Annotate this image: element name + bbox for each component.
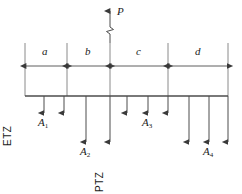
load-label-a3: A3 <box>142 117 152 128</box>
load-label-a4-base: A <box>203 145 210 157</box>
diagram-canvas <box>0 0 242 194</box>
zone-label-etz: ETZ <box>3 126 13 146</box>
load-label-a2: A2 <box>80 146 90 157</box>
load-label-a3-sub: 3 <box>149 122 153 130</box>
load-label-a2-base: A <box>80 145 87 157</box>
load-label-a3-base: A <box>142 116 149 128</box>
applied-load-group <box>107 11 114 43</box>
zone-label-ptz: PTZ <box>95 172 105 192</box>
dimension-label-b: b <box>85 46 91 57</box>
load-label-a4-sub: 4 <box>210 151 214 159</box>
line-break-symbol <box>107 27 114 34</box>
beam-load-diagram: P a b c d ETZ PTZ A1 A2 A3 A4 <box>0 0 242 194</box>
dimension-label-d: d <box>195 46 201 57</box>
dimension-label-a: a <box>42 46 48 57</box>
load-label-a1: A1 <box>38 117 48 128</box>
applied-load-label: P <box>117 6 124 17</box>
load-label-a4: A4 <box>203 146 213 157</box>
load-label-a1-sub: 1 <box>45 122 49 130</box>
long-load-arrows-group <box>86 96 228 142</box>
dimension-label-c: c <box>136 46 141 57</box>
load-label-a2-sub: 2 <box>87 151 91 159</box>
short-load-arrows-group <box>44 96 168 113</box>
load-label-a1-base: A <box>38 116 45 128</box>
